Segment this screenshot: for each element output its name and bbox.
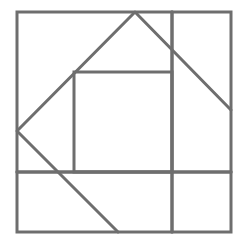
square-dissection-figure xyxy=(0,0,246,248)
diagram-canvas xyxy=(0,0,246,248)
outer-square xyxy=(17,12,231,232)
inner-square xyxy=(74,72,172,172)
tilted-square-outline xyxy=(17,12,231,232)
